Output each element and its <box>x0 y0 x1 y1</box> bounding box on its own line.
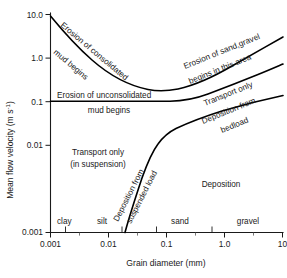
svg-text:Mean flow velocity (m s-1): Mean flow velocity (m s-1) <box>4 101 15 199</box>
y-axis-title-tail: ) <box>5 101 15 104</box>
transport-suspension-line1: Transport only <box>72 148 125 157</box>
y-tick-label-10: 10.0 <box>27 10 44 20</box>
label-erosion-consolidated-mud: Erosion of consolidated mud begins <box>52 21 130 83</box>
deposition-bedload-line2: bedload <box>219 115 250 134</box>
grain-class-label-gravel: gravel <box>237 217 259 226</box>
grain-class-label-clay: clay <box>57 217 72 226</box>
x-tick-label-0.01: 0.01 <box>100 239 117 249</box>
y-axis-ticks <box>46 15 51 233</box>
x-tick-label-0.1: 0.1 <box>161 239 173 249</box>
erosion-unconsolidated-line1: Erosion of unconsolidated <box>57 91 152 100</box>
chart-svg: 10.0 1.0 0.1 0.01 0.001 Mean flow veloci… <box>0 0 287 278</box>
x-axis-tick-labels: 0.001 0.01 0.1 1.0 10 <box>40 239 287 249</box>
grain-class-labels: clay silt sand gravel <box>57 217 259 226</box>
y-tick-label-0.1: 0.1 <box>31 97 43 107</box>
y-tick-label-1: 1.0 <box>31 53 43 63</box>
y-tick-label-0.001: 0.001 <box>22 227 43 237</box>
grain-class-label-silt: silt <box>97 217 108 226</box>
y-axis-title-main: Mean flow velocity (m s <box>5 110 15 199</box>
x-axis-ticks <box>51 233 283 238</box>
x-axis-title: Grain diameter (mm) <box>126 258 205 268</box>
y-tick-label-0.01: 0.01 <box>27 140 44 150</box>
grain-class-boundary-ticks <box>66 227 213 233</box>
erosion-consolidated-line1: Erosion of consolidated <box>59 21 130 83</box>
x-tick-label-10: 10 <box>278 239 287 249</box>
label-transport-in-suspension: Transport only (in suspension) <box>70 148 126 169</box>
label-erosion-unconsolidated-mud: Erosion of unconsolidated mud begins <box>57 91 152 115</box>
label-deposition-region: Deposition <box>202 180 241 189</box>
erosion-unconsolidated-line2: mud begins <box>88 106 130 115</box>
y-axis-title: Mean flow velocity (m s-1) <box>4 101 15 199</box>
x-tick-label-0.001: 0.001 <box>40 239 61 249</box>
x-tick-label-1.0: 1.0 <box>219 239 231 249</box>
transport-suspension-line2: (in suspension) <box>70 160 126 169</box>
grain-class-label-sand: sand <box>171 217 189 226</box>
hjulstrom-diagram-figure: 10.0 1.0 0.1 0.01 0.001 Mean flow veloci… <box>0 0 287 278</box>
y-axis-tick-labels: 10.0 1.0 0.1 0.01 0.001 <box>22 10 43 238</box>
